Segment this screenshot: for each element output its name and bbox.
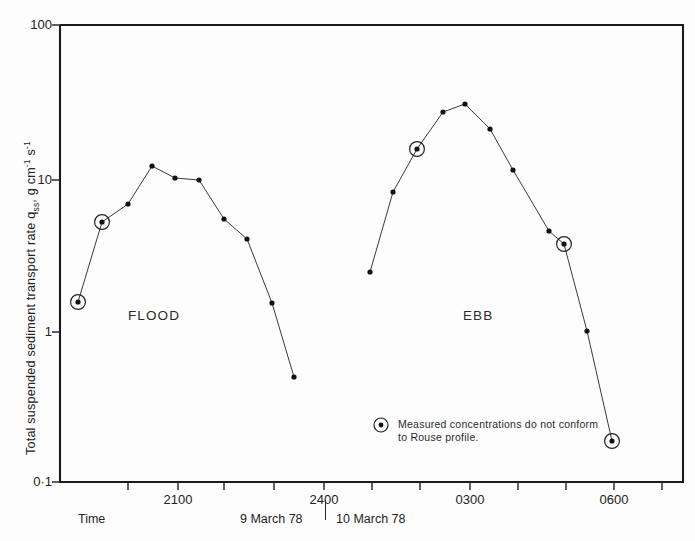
ebb-data-point <box>609 438 614 443</box>
plot-area <box>0 0 695 541</box>
flood-data-point <box>125 201 130 206</box>
series-ebb <box>367 101 619 448</box>
ebb-data-point <box>561 241 566 246</box>
flood-data-point <box>221 216 226 221</box>
ebb-data-point <box>414 146 419 151</box>
ebb-data-point <box>440 109 445 114</box>
axis-frame <box>60 25 683 482</box>
figure-canvas: Total suspended sediment transport rate … <box>0 0 695 541</box>
flood-data-point <box>149 163 154 168</box>
flood-data-point <box>269 300 274 305</box>
y-axis-ticks <box>52 25 60 482</box>
x-axis-ticks <box>128 482 662 490</box>
flood-data-point <box>196 177 201 182</box>
flood-data-point <box>99 219 104 224</box>
flood-data-point <box>172 175 177 180</box>
ebb-data-point <box>584 328 589 333</box>
ebb-line <box>370 104 612 441</box>
flood-data-point <box>291 374 296 379</box>
ebb-data-point <box>462 101 467 106</box>
ebb-data-point <box>487 126 492 131</box>
ebb-data-point <box>367 269 372 274</box>
ebb-data-point <box>546 228 551 233</box>
flood-data-point <box>244 236 249 241</box>
ebb-data-point <box>390 189 395 194</box>
flood-line <box>78 166 294 377</box>
flood-data-point <box>75 299 80 304</box>
series-flood <box>71 163 297 379</box>
ebb-data-point <box>510 167 515 172</box>
